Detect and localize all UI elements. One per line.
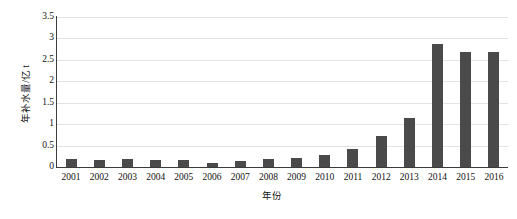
plot-area [57, 17, 508, 167]
bar-slot [113, 17, 141, 167]
bar[interactable] [66, 159, 77, 167]
bar-slot [283, 17, 311, 167]
x-axis-tick-label: 2010 [311, 170, 339, 184]
x-axis-tick-label: 2008 [254, 170, 282, 184]
bar[interactable] [235, 161, 246, 167]
x-axis-tick-label: 2014 [423, 170, 451, 184]
x-axis-tick-label: 2001 [57, 170, 85, 184]
bar[interactable] [263, 159, 274, 167]
x-axis-tick-label: 2002 [85, 170, 113, 184]
bar-slot [85, 17, 113, 167]
x-axis-tick-label: 2009 [283, 170, 311, 184]
bar[interactable] [432, 44, 443, 167]
x-axis-tick-label: 2016 [480, 170, 508, 184]
bar[interactable] [150, 160, 161, 167]
bar[interactable] [404, 118, 415, 167]
bar-slot [198, 17, 226, 167]
x-axis-tick-label: 2011 [339, 170, 367, 184]
bar-slot [339, 17, 367, 167]
bar-slot [480, 17, 508, 167]
x-axis-line [56, 167, 508, 168]
x-axis-tick-label: 2006 [198, 170, 226, 184]
x-axis-tick-label: 2004 [142, 170, 170, 184]
x-axis-tick-label: 2007 [226, 170, 254, 184]
bar-slot [311, 17, 339, 167]
bar-series [57, 17, 508, 167]
bar-slot [57, 17, 85, 167]
bar-slot [452, 17, 480, 167]
y-axis-tick-label: 1.5 [30, 98, 54, 108]
x-axis-tick-label: 2005 [170, 170, 198, 184]
bar[interactable] [488, 52, 499, 167]
bar-slot [254, 17, 282, 167]
bar-slot [142, 17, 170, 167]
y-axis-tick-label: 3 [30, 34, 54, 44]
y-axis-tick-label: 0 [30, 162, 54, 172]
y-axis-tick-labels: 00.511.522.533.5 [26, 0, 54, 219]
bar[interactable] [347, 149, 358, 167]
bar[interactable] [178, 160, 189, 167]
bar[interactable] [319, 155, 330, 167]
x-axis-tick-label: 2013 [395, 170, 423, 184]
bar-chart: 年补水量/亿 t 00.511.522.533.5 20012002200320… [0, 0, 517, 219]
bar-slot [226, 17, 254, 167]
x-axis-tick-label: 2003 [113, 170, 141, 184]
bar[interactable] [291, 158, 302, 167]
y-axis-tick-label: 1 [30, 119, 54, 129]
bar[interactable] [122, 159, 133, 167]
y-axis-tick-label: 2.5 [30, 55, 54, 65]
x-axis-tick-labels: 2001200220032004200520062007200820092010… [57, 170, 508, 184]
bar[interactable] [207, 163, 218, 167]
y-axis-tick-label: 0.5 [30, 141, 54, 151]
bar-slot [170, 17, 198, 167]
y-axis-tick-label: 3.5 [30, 12, 54, 22]
bar-slot [395, 17, 423, 167]
bar[interactable] [94, 160, 105, 167]
x-axis-tick-label: 2012 [367, 170, 395, 184]
x-axis-title: 年份 [0, 188, 517, 202]
bar[interactable] [376, 136, 387, 167]
bar-slot [367, 17, 395, 167]
x-axis-title-text: 年份 [262, 188, 282, 202]
bar-slot [423, 17, 451, 167]
bar[interactable] [460, 52, 471, 167]
x-axis-tick-label: 2015 [452, 170, 480, 184]
y-axis-tick-label: 2 [30, 77, 54, 87]
